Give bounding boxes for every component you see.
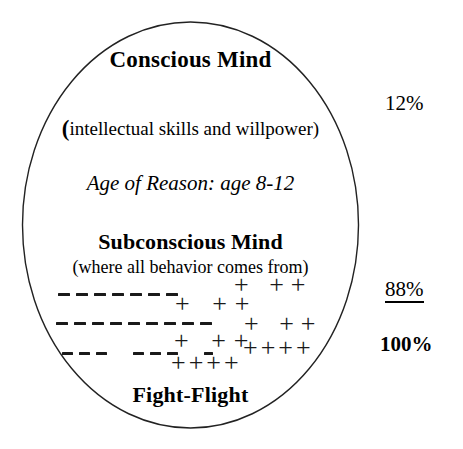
dash-mark (74, 322, 86, 325)
dash-mark (164, 322, 176, 325)
open-paren-glyph: ( (62, 116, 70, 141)
dash-mark (92, 322, 104, 325)
conscious-mind-subtitle: (intellectual skills and willpower) (22, 117, 359, 141)
dash-mark (94, 293, 106, 296)
dash-mark (200, 322, 212, 325)
dash-mark (128, 322, 140, 325)
conscious-percent-label: 12% (385, 93, 424, 114)
dash-mark (112, 293, 124, 296)
dash-mark (150, 352, 161, 355)
dash-mark (96, 352, 107, 355)
dash-mark (62, 352, 73, 355)
age-of-reason-note: Age of Reason: age 8-12 (22, 172, 359, 194)
fight-flight-label: Fight-Flight (22, 383, 359, 406)
dash-gap (113, 352, 127, 355)
dash-mark (130, 293, 142, 296)
dash-mark (76, 293, 88, 296)
conscious-mind-heading: Conscious Mind (22, 48, 359, 72)
plus-mark-cluster: ++++ (171, 350, 242, 376)
dash-row (58, 289, 178, 299)
dash-mark (58, 293, 70, 296)
dash-mark (146, 322, 158, 325)
dash-mark (79, 352, 90, 355)
total-percent-label: 100% (380, 334, 433, 355)
subconscious-percent-label: 88% (385, 279, 424, 303)
dash-mark (56, 322, 68, 325)
plus-mark-cluster: ++++ (243, 335, 314, 361)
dash-mark (148, 293, 160, 296)
subconscious-mind-heading: Subconscious Mind (22, 230, 359, 253)
dash-mark (133, 352, 144, 355)
dash-mark (110, 322, 122, 325)
dash-mark (182, 322, 194, 325)
mind-diagram: Conscious Mind (intellectual skills and … (0, 0, 463, 449)
conscious-mind-subtitle-text: intellectual skills and willpower) (70, 118, 320, 139)
